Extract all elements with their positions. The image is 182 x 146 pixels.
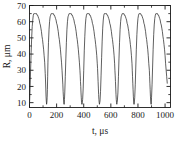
- x-axis-tick-label: 400: [77, 110, 91, 120]
- y-axis-tick-label: 30: [17, 65, 27, 75]
- x-axis-tick-label: 200: [50, 110, 64, 120]
- y-axis-tick-label: 10: [17, 98, 27, 108]
- chart-plot: 0200400600800100010203040506070t, μsR, μ…: [0, 0, 182, 146]
- y-axis-tick-label: 70: [17, 1, 27, 11]
- y-axis-tick-label: 40: [17, 49, 27, 59]
- x-axis-tick-label: 600: [104, 110, 118, 120]
- y-axis-tick-label: 20: [17, 82, 27, 92]
- y-axis-tick-label: 50: [17, 33, 27, 43]
- plot-frame: [30, 6, 171, 108]
- y-axis-title: R, μm: [2, 44, 12, 68]
- data-series-line: [30, 14, 168, 105]
- x-axis-tick-label: 800: [131, 110, 145, 120]
- x-axis-tick-label: 1000: [156, 110, 175, 120]
- x-axis-tick-label: 0: [27, 110, 32, 120]
- figure-container: 0200400600800100010203040506070t, μsR, μ…: [0, 0, 182, 146]
- y-axis-tick-label: 60: [17, 17, 27, 27]
- x-axis-title: t, μs: [92, 126, 108, 136]
